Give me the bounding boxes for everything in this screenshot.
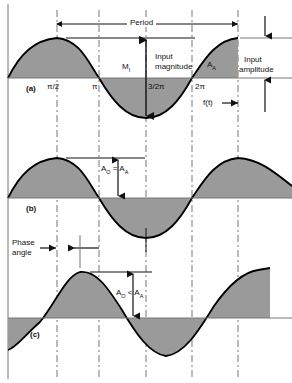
panel-label-c: (c)	[30, 330, 40, 339]
tick-label-3-2-pi: 3/2π	[148, 82, 165, 91]
input-magnitude-label-line1: Input	[155, 52, 173, 61]
tick-label-pi: π	[92, 82, 98, 91]
input-amplitude-label-line1: Input	[244, 55, 262, 64]
panel-c-wave	[8, 268, 292, 356]
relation-label-c: AO < AA	[116, 288, 143, 301]
tick-label-pi-over-2: π/2	[47, 82, 59, 91]
amplitude-symbol-a: AA	[207, 60, 216, 73]
phase-angle-label-line1: Phase	[12, 238, 35, 247]
input-amplitude-label-line2: amplitude	[239, 65, 274, 74]
panel-b-wave	[8, 158, 292, 238]
period-label: Period	[127, 18, 156, 27]
function-label: f(t)	[203, 98, 213, 107]
magnitude-subscript: I	[129, 67, 131, 73]
tick-label-2-pi: 2π	[195, 82, 205, 91]
figure-sinusoid-amplitude-phase: Period MI Input magnitude Input amplitud…	[0, 0, 292, 383]
panel-a-wave	[8, 38, 292, 118]
panel-label-a: (a)	[26, 84, 36, 93]
input-magnitude-label-line2: magnitude	[155, 62, 192, 71]
phase-angle-label-line2: angle	[12, 248, 32, 257]
relation-label-b: AO = AA	[101, 164, 128, 177]
amplitude-subscript: A	[212, 65, 216, 71]
input-magnitude-symbol: MI	[122, 62, 130, 75]
panel-label-b: (b)	[26, 204, 36, 213]
